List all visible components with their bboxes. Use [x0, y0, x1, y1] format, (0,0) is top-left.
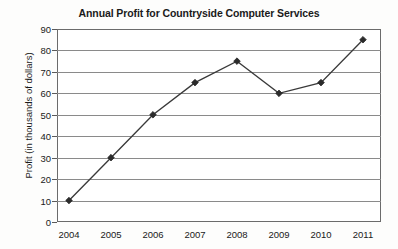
data-series-layer [57, 29, 381, 222]
y-tick-mark-50 [52, 115, 57, 116]
y-tick-label-60: 60 [21, 88, 51, 99]
chart-title: Annual Profit for Countryside Computer S… [0, 7, 398, 19]
y-tick-label-90: 90 [21, 24, 51, 35]
y-tick-mark-40 [52, 136, 57, 137]
line-chart: Annual Profit for Countryside Computer S… [0, 0, 398, 249]
y-tick-mark-60 [52, 93, 57, 94]
y-tick-label-10: 10 [21, 195, 51, 206]
y-tick-mark-20 [52, 179, 57, 180]
x-tick-label-2011: 2011 [340, 229, 386, 240]
plot-area [57, 29, 381, 222]
y-tick-mark-30 [52, 158, 57, 159]
x-tick-label-2008: 2008 [214, 229, 260, 240]
data-line [69, 40, 363, 201]
y-tick-label-40: 40 [21, 131, 51, 142]
y-tick-mark-80 [52, 50, 57, 51]
x-tick-label-2005: 2005 [88, 229, 134, 240]
x-tick-label-2004: 2004 [46, 229, 92, 240]
x-tick-label-2009: 2009 [256, 229, 302, 240]
y-tick-label-30: 30 [21, 152, 51, 163]
y-tick-label-50: 50 [21, 109, 51, 120]
y-tick-label-80: 80 [21, 45, 51, 56]
x-tick-label-2006: 2006 [130, 229, 176, 240]
y-tick-mark-10 [52, 201, 57, 202]
x-tick-label-2007: 2007 [172, 229, 218, 240]
y-tick-mark-70 [52, 72, 57, 73]
y-tick-mark-90 [52, 29, 57, 30]
y-tick-label-70: 70 [21, 66, 51, 77]
x-tick-label-2010: 2010 [298, 229, 344, 240]
y-tick-mark-0 [52, 222, 57, 223]
y-tick-label-20: 20 [21, 174, 51, 185]
y-tick-label-0: 0 [21, 217, 51, 228]
